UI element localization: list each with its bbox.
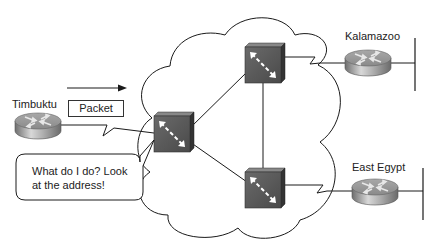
label-kalamazoo: Kalamazoo (345, 30, 400, 42)
switch-bottom (245, 168, 285, 208)
router-timbuktu (15, 113, 61, 139)
packet-direction-arrow (67, 85, 127, 92)
router-kalamazoo (345, 50, 391, 76)
packet-label: Packet (79, 102, 113, 114)
callout-text: What do I do? Look at the address! (32, 164, 142, 192)
network-diagram: Timbuktu Kalamazoo East Egypt Packet Wha… (0, 0, 435, 249)
switch-top (245, 43, 285, 83)
label-east-egypt: East Egypt (352, 161, 405, 173)
router-east-egypt (352, 179, 398, 205)
callout-line-2: at the address! (32, 178, 142, 192)
switch-left (154, 112, 194, 152)
callout-line-1: What do I do? Look (32, 164, 142, 178)
label-timbuktu: Timbuktu (12, 98, 57, 110)
packet-box: Packet (68, 100, 124, 117)
